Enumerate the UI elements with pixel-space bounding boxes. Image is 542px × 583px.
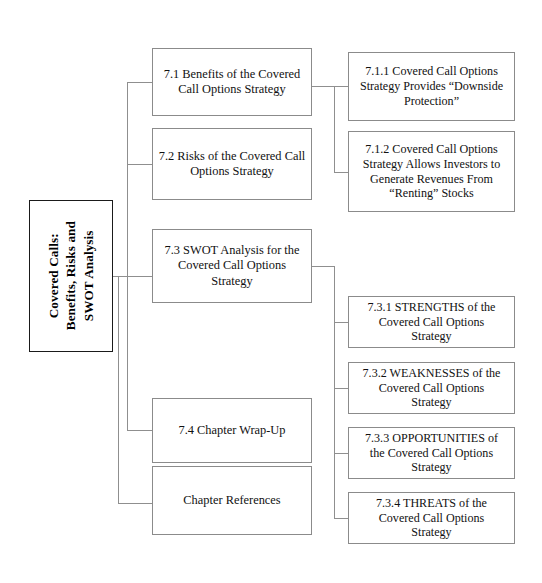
connector-to-7-3-2 <box>334 388 348 389</box>
node-7-3-1[interactable]: 7.3.1 STRENGTHS of the Covered Call Opti… <box>348 296 515 348</box>
node-7-4-label: 7.4 Chapter Wrap-Up <box>179 423 286 438</box>
node-7-3-4-label: 7.3.4 THREATS of the Covered Call Option… <box>376 496 487 540</box>
connector-7-1-stub <box>312 86 335 87</box>
node-root[interactable]: Covered Calls: Benefits, Risks and SWOT … <box>29 200 113 352</box>
node-7-3-1-label: 7.3.1 STRENGTHS of the Covered Call Opti… <box>368 300 496 344</box>
connector-to-7-3-3 <box>334 453 348 454</box>
node-7-3-label: 7.3 SWOT Analysis for the Covered Call O… <box>164 243 299 288</box>
connector-to-7-1-1 <box>334 86 348 87</box>
node-7-4[interactable]: 7.4 Chapter Wrap-Up <box>152 398 312 463</box>
connector-to-7-1 <box>127 82 152 83</box>
connector-to-7-3 <box>127 276 152 277</box>
node-chapter-references-label: Chapter References <box>183 493 280 508</box>
node-7-1-2-label: 7.1.2 Covered Call Options Strategy Allo… <box>363 142 500 201</box>
node-7-3-3[interactable]: 7.3.3 OPPORTUNITIES of the Covered Call … <box>348 427 515 479</box>
node-7-3-2-label: 7.3.2 WEAKNESSES of the Covered Call Opt… <box>363 366 501 410</box>
connector-to-7-4 <box>127 430 152 431</box>
node-7-1-label: 7.1 Benefits of the Covered Call Options… <box>164 67 301 97</box>
node-7-3[interactable]: 7.3 SWOT Analysis for the Covered Call O… <box>152 229 312 303</box>
node-7-3-2[interactable]: 7.3.2 WEAKNESSES of the Covered Call Opt… <box>348 362 515 414</box>
node-7-1-2[interactable]: 7.1.2 Covered Call Options Strategy Allo… <box>348 131 515 212</box>
connector-7-1-spine <box>334 86 335 172</box>
connector-to-7-3-4 <box>334 518 348 519</box>
connector-inner-spine <box>127 82 128 430</box>
node-7-3-4[interactable]: 7.3.4 THREATS of the Covered Call Option… <box>348 492 515 544</box>
node-7-3-3-label: 7.3.3 OPPORTUNITIES of the Covered Call … <box>365 431 498 475</box>
connector-root-stub <box>113 276 127 277</box>
connector-to-7-2 <box>127 164 152 165</box>
connector-to-7-3-1 <box>334 322 348 323</box>
node-7-2-label: 7.2 Risks of the Covered Call Options St… <box>159 149 306 179</box>
node-7-1-1-label: 7.1.1 Covered Call Options Strategy Prov… <box>360 64 503 108</box>
node-7-1-1[interactable]: 7.1.1 Covered Call Options Strategy Prov… <box>348 52 515 121</box>
connector-7-3-stub <box>312 266 335 267</box>
node-7-1[interactable]: 7.1 Benefits of the Covered Call Options… <box>152 48 312 116</box>
connector-7-3-spine <box>334 266 335 518</box>
node-7-2[interactable]: 7.2 Risks of the Covered Call Options St… <box>152 128 312 200</box>
connector-outer-spine <box>118 276 119 503</box>
diagram-canvas: Covered Calls: Benefits, Risks and SWOT … <box>0 0 542 583</box>
connector-to-7-1-2 <box>334 172 348 173</box>
node-root-label: Covered Calls: Benefits, Risks and SWOT … <box>45 221 97 330</box>
connector-to-references <box>118 503 152 504</box>
node-chapter-references[interactable]: Chapter References <box>152 466 312 535</box>
